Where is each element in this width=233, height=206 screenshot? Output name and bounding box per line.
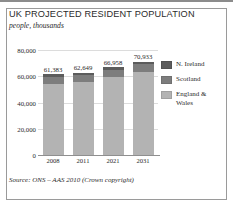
source-text: Source: ONS – AAS 2010 (Crown copyright): [9, 176, 134, 184]
bar-2021[interactable]: 66,958: [103, 67, 124, 155]
x-axis-tick-label: 2031: [128, 157, 158, 164]
y-axis-tick-label: 80,000: [2, 47, 36, 54]
y-axis-tick-label: 0: [2, 152, 36, 159]
legend-item-label: England & Wales: [176, 90, 221, 107]
bar-2011[interactable]: 62,649: [73, 73, 94, 155]
gridline: [38, 50, 158, 51]
source-note: Source: ONS – AAS 2010 (Crown copyright): [9, 176, 134, 184]
figure-container: UK PROJECTED RESIDENT POPULATION people,…: [0, 0, 233, 206]
bar-value-label: 62,649: [74, 64, 93, 71]
bar-segment: [43, 84, 64, 155]
bar-segment: [103, 77, 124, 155]
bar-segment: [73, 82, 94, 155]
bar-value-label: 66,958: [104, 59, 123, 66]
chart-title: UK PROJECTED RESIDENT POPULATION: [9, 9, 195, 19]
x-axis-tick-label: 2008: [38, 157, 68, 164]
bar-segment: [133, 64, 154, 71]
bar-segment: [43, 77, 64, 84]
bar-value-label: 70,933: [134, 53, 153, 60]
bar-2008[interactable]: 61,383: [43, 74, 64, 155]
legend-swatch-icon: [161, 91, 172, 99]
y-axis-tick-label: 40,000: [2, 99, 36, 106]
bar-2031[interactable]: 70,933: [133, 62, 154, 155]
bar-value-label: 61,383: [44, 66, 63, 73]
legend-item-label: N. Ireland: [176, 60, 204, 69]
y-axis-tick-label: 60,000: [2, 73, 36, 80]
legend-item-label: Scotland: [176, 75, 201, 84]
y-axis: 020,00040,00060,00080,000: [0, 50, 36, 155]
legend: N. IrelandScotlandEngland & Wales: [161, 60, 221, 113]
x-axis-line: [38, 155, 160, 156]
bar-segment: [133, 72, 154, 155]
legend-item[interactable]: N. Ireland: [161, 60, 221, 69]
x-axis-tick-label: 2021: [98, 157, 128, 164]
top-rule-divider: [0, 0, 233, 2]
legend-item[interactable]: Scotland: [161, 75, 221, 84]
x-axis-tick-label: 2011: [68, 157, 98, 164]
y-axis-tick-label: 20,000: [2, 125, 36, 132]
bar-segment: [73, 75, 94, 82]
chart-subtitle: people, thousands: [9, 21, 64, 30]
legend-swatch-icon: [161, 61, 172, 69]
bar-segment: [103, 70, 124, 77]
legend-item[interactable]: England & Wales: [161, 90, 221, 107]
plot-area: 61,38362,64966,95870,933: [38, 50, 158, 155]
legend-swatch-icon: [161, 76, 172, 84]
